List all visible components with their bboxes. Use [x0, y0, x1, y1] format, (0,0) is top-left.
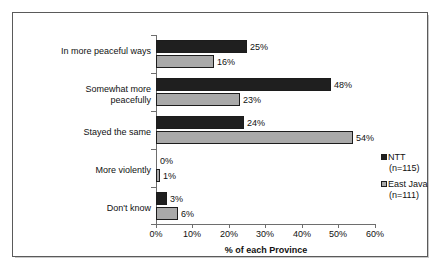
value-axis-line — [156, 224, 376, 225]
value-tick-10 — [192, 224, 193, 228]
bar-value-ntt-in-more-peaceful-ways: 25% — [250, 42, 268, 53]
category-label-in-more-peaceful-ways: In more peaceful ways — [19, 46, 151, 57]
value-tick-60 — [375, 224, 376, 228]
bar-value-eastjava-more-violently: 1% — [163, 171, 176, 182]
value-tick-label-0: 0% — [136, 229, 176, 240]
bar-value-ntt-more-violently: 0% — [160, 156, 173, 167]
category-label-more-violently: More violently — [19, 165, 151, 176]
value-tick-label-60: 60% — [355, 229, 395, 240]
category-tick — [151, 187, 156, 188]
value-tick-20 — [229, 224, 230, 228]
value-tick-0 — [156, 224, 157, 228]
bar-value-eastjava-somewhat-more-peacefully: 23% — [243, 95, 261, 106]
legend-swatch-ntt-icon — [381, 154, 387, 160]
category-axis-labels: In more peaceful ways Somewhat more peac… — [13, 13, 151, 258]
category-tick — [151, 35, 156, 36]
legend-sublabel-east-java: (n=111) — [381, 190, 439, 201]
value-tick-30 — [265, 224, 266, 228]
value-tick-label-20: 20% — [209, 229, 249, 240]
legend-label-east-java: East Java — [388, 179, 428, 190]
bar-eastjava-stayed-the-same — [156, 131, 353, 144]
bar-eastjava-more-violently — [156, 169, 160, 182]
chart-legend: NTT (n=115) East Java (n=111) — [381, 152, 439, 206]
bar-ntt-in-more-peaceful-ways — [156, 40, 247, 53]
value-tick-40 — [302, 224, 303, 228]
value-tick-label-10: 10% — [172, 229, 212, 240]
bar-value-eastjava-dont-know: 6% — [181, 209, 194, 220]
bar-eastjava-in-more-peaceful-ways — [156, 55, 214, 68]
category-label-dont-know: Don't know — [19, 203, 151, 214]
value-tick-label-50: 50% — [318, 229, 358, 240]
bar-ntt-stayed-the-same — [156, 116, 244, 129]
value-axis-title: % of each Province — [156, 245, 376, 255]
value-tick-label-40: 40% — [282, 229, 322, 240]
bar-eastjava-somewhat-more-peacefully — [156, 93, 240, 106]
bar-value-ntt-somewhat-more-peacefully: 48% — [334, 80, 352, 91]
bar-value-ntt-dont-know: 3% — [170, 194, 183, 205]
legend-entry-ntt: NTT (n=115) — [381, 152, 439, 174]
bar-value-eastjava-stayed-the-same: 54% — [356, 133, 374, 144]
legend-sublabel-ntt: (n=115) — [381, 163, 439, 174]
value-tick-label-30: 30% — [245, 229, 285, 240]
category-tick — [151, 73, 156, 74]
bar-ntt-somewhat-more-peacefully — [156, 78, 331, 91]
category-label-somewhat-more-peacefully: Somewhat more peacefully — [19, 84, 151, 106]
category-tick — [151, 111, 156, 112]
bar-value-ntt-stayed-the-same: 24% — [247, 118, 265, 129]
legend-swatch-east-java-icon — [381, 181, 387, 187]
legend-label-ntt: NTT — [388, 152, 406, 163]
value-tick-50 — [338, 224, 339, 228]
legend-entry-east-java: East Java (n=111) — [381, 179, 439, 201]
bar-ntt-dont-know — [156, 192, 167, 205]
bar-eastjava-dont-know — [156, 207, 178, 220]
chart-border: In more peaceful ways Somewhat more peac… — [12, 12, 428, 257]
category-label-stayed-the-same: Stayed the same — [19, 127, 151, 138]
chart-figure: In more peaceful ways Somewhat more peac… — [0, 0, 439, 272]
bar-value-eastjava-in-more-peaceful-ways: 16% — [217, 57, 235, 68]
category-tick — [151, 149, 156, 150]
